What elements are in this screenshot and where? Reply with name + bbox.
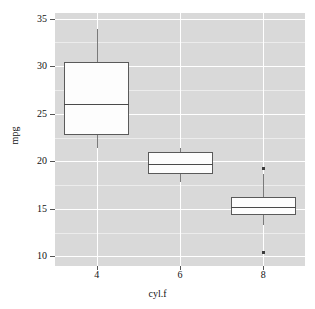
y-tick-label: 35 — [25, 14, 47, 24]
y-tick-mark — [50, 19, 55, 20]
boxplot-figure: mpg cyl.f 101520253035468 — [0, 0, 315, 309]
box-6 — [148, 152, 213, 174]
x-tick-label: 8 — [243, 270, 283, 280]
y-tick-label: 25 — [25, 109, 47, 119]
box-4 — [64, 62, 129, 134]
y-axis-title: mpg — [9, 106, 20, 166]
box-8 — [231, 197, 296, 215]
y-tick-mark — [50, 209, 55, 210]
x-tick-mark — [263, 266, 264, 270]
y-tick-mark — [50, 161, 55, 162]
outlier-point — [262, 251, 265, 254]
plot-panel — [55, 13, 305, 266]
y-tick-label: 30 — [25, 61, 47, 71]
gridline-vertical — [180, 13, 181, 266]
y-tick-label: 20 — [25, 156, 47, 166]
y-tick-mark — [50, 114, 55, 115]
whisker-lower — [263, 215, 264, 225]
x-tick-mark — [180, 266, 181, 270]
median-line-6 — [148, 164, 213, 165]
y-tick-mark — [50, 66, 55, 67]
whisker-lower — [180, 174, 181, 182]
whisker-upper — [97, 29, 98, 62]
x-tick-label: 4 — [77, 270, 117, 280]
y-tick-label: 15 — [25, 204, 47, 214]
x-tick-mark — [97, 266, 98, 270]
x-axis-title: cyl.f — [0, 288, 315, 299]
y-tick-label: 10 — [25, 251, 47, 261]
outlier-point — [262, 167, 265, 170]
y-tick-mark — [50, 256, 55, 257]
median-line-4 — [64, 104, 129, 105]
median-line-8 — [231, 207, 296, 208]
whisker-lower — [97, 135, 98, 148]
x-tick-label: 6 — [160, 270, 200, 280]
gridline-vertical — [263, 13, 264, 266]
whisker-upper — [263, 174, 264, 197]
